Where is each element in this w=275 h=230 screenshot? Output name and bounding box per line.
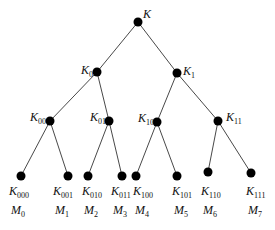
label-K11: K11 [225,110,242,126]
node-K101 [173,172,182,181]
label-K011: K011 [110,184,131,200]
label-K001: K001 [52,184,73,200]
edge-K00-K001 [50,121,68,176]
edge-K1-K10 [157,73,177,122]
label-K00: K00 [29,110,46,126]
edge-K10-K101 [157,122,177,176]
edge-K00-K000 [21,121,50,176]
label-K: K [142,7,152,21]
edge-K01-K010 [88,121,109,176]
edge-K-K1 [138,22,177,73]
member-label-M2: M2 [83,203,98,219]
label-K110: K110 [200,184,221,200]
node-K100 [132,172,141,181]
node-K000 [17,172,26,181]
member-label-M3: M3 [112,203,127,219]
label-K1: K1 [182,64,195,80]
member-label-M6: M6 [202,203,217,219]
node-K001 [64,172,73,181]
node-K011 [118,172,127,181]
node-K11 [214,117,223,126]
node-K010 [84,172,93,181]
edge-K10-K100 [136,122,157,176]
edge-K11-K111 [218,121,251,173]
member-label-M5: M5 [173,203,188,219]
tree-edges [21,22,251,176]
member-label-M0: M0 [10,203,25,219]
node-K1 [173,69,182,78]
key-tree-diagram: KK0K1K00K01K10K11K000M0K001M1K010M2K011M… [0,0,275,230]
tree-labels: KK0K1K00K01K10K11K000M0K001M1K010M2K011M… [8,7,265,219]
edge-K1-K11 [177,73,218,121]
label-K0: K0 [80,63,93,79]
node-K111 [247,169,256,178]
edge-K11-K110 [208,121,218,172]
label-K10: K10 [137,111,154,127]
label-K010: K010 [81,184,102,200]
tree-nodes [17,18,256,181]
label-K101: K101 [171,184,192,200]
node-K110 [204,168,213,177]
node-K0 [93,68,102,77]
edge-K-K0 [97,22,138,72]
member-label-M7: M7 [247,203,262,219]
label-K000: K000 [8,184,29,200]
label-K01: K01 [89,110,106,126]
node-K00 [46,117,55,126]
edge-K01-K011 [109,121,122,176]
label-K100: K100 [132,184,153,200]
node-K [134,18,143,27]
member-label-M1: M1 [54,203,69,219]
edge-K0-K01 [97,72,109,121]
member-label-M4: M4 [134,203,149,219]
label-K111: K111 [245,184,265,200]
